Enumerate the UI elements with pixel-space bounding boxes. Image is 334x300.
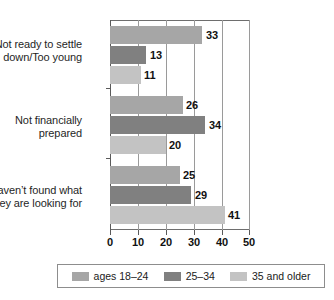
legend-item-25-34: 25–34 [164,270,215,282]
category-label-group-2-line-2: prepared [0,127,82,140]
bar-group-3-series-2 [110,186,191,204]
chart-legend: ages 18–24 25–34 35 and older [57,264,325,288]
legend-label-series-1: ages 18–24 [94,270,149,282]
category-label-group-1: Not ready to settle down/Too young [0,38,82,64]
x-tick-30 [194,230,195,235]
bar-value-group-1-series-2: 13 [150,46,162,64]
category-label-group-3: Haven’t found what they are looking for [0,184,82,210]
x-tick-label-20: 20 [160,236,172,248]
x-tick-label-40: 40 [216,236,228,248]
gridline-50 [249,20,250,230]
plot-area: 33 13 11 26 34 20 25 29 41 [110,20,250,230]
group-separator-tick-2 [106,158,111,159]
bar-value-group-2-series-1: 26 [186,96,198,114]
bar-group-1-series-2 [110,46,146,64]
category-label-group-3-line-2: they are looking for [0,197,82,210]
legend-item-ages-18-24: ages 18–24 [72,270,149,282]
legend-swatch-icon-series-2 [164,272,181,281]
bar-value-group-3-series-3: 41 [228,206,240,224]
bar-value-group-1-series-1: 33 [206,26,218,44]
gridline-40 [222,20,223,230]
legend-label-series-2: 25–34 [186,270,215,282]
bar-group-2-series-3 [110,136,166,154]
category-label-group-2-line-1: Not financially [0,114,82,127]
x-tick-label-0: 0 [107,236,113,248]
x-tick-label-30: 30 [188,236,200,248]
legend-label-series-3: 35 and older [252,270,310,282]
legend-item-35-and-older: 35 and older [230,270,310,282]
x-tick-label-10: 10 [132,236,144,248]
x-tick-10 [138,230,139,235]
x-tick-50 [249,230,250,235]
bar-value-group-2-series-2: 34 [209,116,221,134]
plot-top-border [110,20,250,21]
x-tick-40 [222,230,223,235]
bar-group-2-series-2 [110,116,205,134]
bar-value-group-3-series-1: 25 [183,166,195,184]
x-tick-0 [110,230,111,235]
bar-group-3-series-1 [110,166,180,184]
bar-group-1-series-1 [110,26,202,44]
category-label-group-2: Not financially prepared [0,114,82,140]
category-label-group-3-line-1: Haven’t found what [0,184,82,197]
bar-group-1-series-3 [110,66,141,84]
category-label-group-1-line-2: down/Too young [0,51,82,64]
bar-value-group-1-series-3: 11 [144,66,156,84]
x-tick-20 [166,230,167,235]
bar-value-group-2-series-3: 20 [169,136,181,154]
group-separator-tick-1 [106,88,111,89]
bar-group-3-series-3 [110,206,225,224]
legend-swatch-icon-series-1 [72,272,89,281]
grouped-bar-chart: Not ready to settle down/Too young Not f… [0,0,334,300]
bar-group-2-series-1 [110,96,183,114]
x-tick-label-50: 50 [243,236,255,248]
x-axis: 0 10 20 30 40 50 [110,230,250,252]
category-label-group-1-line-1: Not ready to settle [0,38,82,51]
bar-value-group-3-series-2: 29 [195,186,207,204]
legend-swatch-icon-series-3 [230,272,247,281]
